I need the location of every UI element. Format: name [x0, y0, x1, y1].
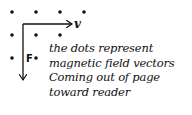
- force-label: F: [26, 53, 33, 64]
- field-dot: [34, 56, 38, 60]
- field-dot: [10, 56, 14, 60]
- note-line: toward reader: [49, 85, 192, 100]
- note-line: the dots represent: [49, 41, 192, 56]
- annotation-note: the dots represent magnetic field vector…: [49, 41, 192, 99]
- field-dot: [82, 10, 86, 14]
- note-line: magnetic field vectors: [49, 56, 192, 71]
- field-dot: [34, 10, 38, 14]
- field-dot: [58, 33, 62, 37]
- field-dot: [10, 33, 14, 37]
- velocity-label: v: [74, 17, 82, 31]
- field-dot: [10, 10, 14, 14]
- field-dot: [58, 10, 62, 14]
- note-line: Coming out of page: [49, 70, 192, 85]
- field-dot: [34, 33, 38, 37]
